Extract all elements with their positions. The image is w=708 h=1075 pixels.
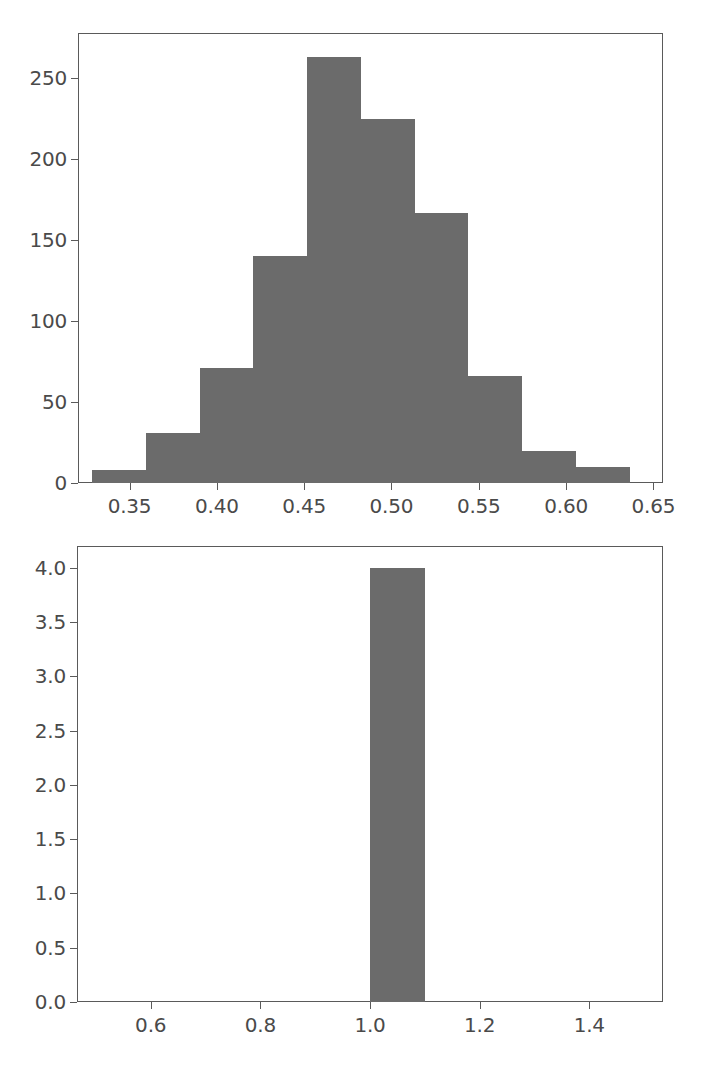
bottom-ytick-mark [70,1002,77,1003]
bottom-xtick-mark [151,1002,152,1009]
top-bar [468,376,522,483]
bottom-ytick-label: 1.5 [35,827,66,851]
top-bar [361,119,415,483]
top-ytick-mark [71,321,78,322]
top-ytick-label: 150 [29,228,67,252]
top-bar [415,213,469,483]
top-xtick-label: 0.35 [108,494,152,518]
bottom-ytick-mark [70,839,77,840]
top-ytick-mark [71,483,78,484]
bottom-xtick-mark [370,1002,371,1009]
top-xtick-label: 0.45 [282,494,326,518]
bottom-xtick-label: 1.2 [464,1013,495,1037]
top-bar [200,368,254,483]
top-xtick-mark [130,483,131,490]
bottom-ytick-mark [70,568,77,569]
bottom-xtick-label: 1.4 [574,1013,605,1037]
top-xtick-mark [653,483,654,490]
top-ytick-label: 250 [29,66,67,90]
bottom-ytick-label: 3.0 [35,664,66,688]
bottom-ytick-mark [70,948,77,949]
bottom-xtick-label: 0.6 [135,1013,166,1037]
top-ytick-mark [71,78,78,79]
bottom-histogram-panel: 0.00.51.01.52.02.53.03.54.00.60.81.01.21… [77,546,663,1002]
bottom-xtick-mark [480,1002,481,1009]
bottom-ytick-mark [70,622,77,623]
bottom-ytick-label: 2.5 [35,719,66,743]
top-bar [522,451,576,483]
top-ytick-mark [71,402,78,403]
top-ytick-label: 50 [42,390,67,414]
top-ytick-label: 100 [29,309,67,333]
top-histogram-bars [78,33,663,483]
top-ytick-label: 200 [29,147,67,171]
top-xtick-label: 0.65 [632,494,676,518]
top-xtick-mark [566,483,567,490]
top-bar [307,57,361,483]
top-bar [146,433,200,483]
bottom-ytick-label: 1.0 [35,881,66,905]
bottom-ytick-mark [70,676,77,677]
top-ytick-mark [71,159,78,160]
top-xtick-mark [217,483,218,490]
bottom-xtick-mark [589,1002,590,1009]
top-bar [92,470,146,483]
figure-canvas: 0501001502002500.350.400.450.500.550.600… [0,0,708,1075]
top-bar [576,467,630,483]
top-xtick-mark [479,483,480,490]
top-bar [253,256,307,483]
top-xtick-label: 0.40 [195,494,239,518]
bottom-ytick-label: 0.5 [35,936,66,960]
bottom-bar [370,568,425,1002]
bottom-ytick-mark [70,731,77,732]
bottom-ytick-label: 3.5 [35,610,66,634]
bottom-ytick-label: 0.0 [35,990,66,1014]
bottom-ytick-mark [70,893,77,894]
top-xtick-label: 0.55 [457,494,501,518]
bottom-xtick-label: 0.8 [245,1013,276,1037]
top-xtick-mark [304,483,305,490]
bottom-xtick-label: 1.0 [354,1013,385,1037]
top-xtick-label: 0.60 [544,494,588,518]
top-xtick-label: 0.50 [370,494,414,518]
bottom-xtick-mark [260,1002,261,1009]
top-ytick-label: 0 [54,471,67,495]
bottom-ytick-label: 2.0 [35,773,66,797]
top-histogram-panel: 0501001502002500.350.400.450.500.550.600… [78,33,663,483]
top-xtick-mark [391,483,392,490]
bottom-ytick-label: 4.0 [35,556,66,580]
top-ytick-mark [71,240,78,241]
bottom-ytick-mark [70,785,77,786]
bottom-histogram-bars [77,546,663,1002]
